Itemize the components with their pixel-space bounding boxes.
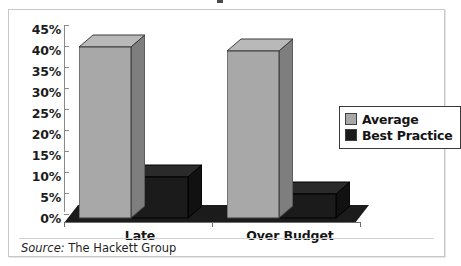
y-tick-mark-10 (64, 172, 69, 173)
y-tick-label-5: 5% (17, 193, 61, 203)
y-axis-line (64, 25, 65, 212)
y-tick-mark-35 (64, 67, 69, 68)
y-tick-label-15: 15% (17, 151, 61, 161)
source-note: Source: The Hackett Group (21, 241, 176, 255)
y-tick-mark-30 (64, 88, 69, 89)
y-tick-mark-20 (64, 130, 69, 131)
x-tick-mark-end (360, 222, 361, 227)
source-label: Source: (21, 241, 65, 255)
y-tick-label-10: 10% (17, 172, 61, 182)
x-tick-mark-mid (212, 222, 213, 227)
y-tick-label-0: 0% (17, 214, 61, 224)
chart-figure: 45% 40% 35% 30% 25% 20% 15% 10% 5% 0% (8, 9, 445, 257)
y-tick-label-25: 25% (17, 109, 61, 119)
y-tick-mark-5 (64, 193, 69, 194)
y-tick-label-40: 40% (17, 46, 61, 56)
legend-item-average[interactable]: Average (345, 111, 453, 127)
y-tick-mark-15 (64, 151, 69, 152)
chart-legend[interactable]: Average Best Practice (339, 106, 461, 149)
y-tick-mark-40 (64, 46, 69, 47)
y-tick-label-35: 35% (17, 67, 61, 77)
y-tick-mark-45 (64, 25, 69, 26)
x-tick-mark-start (64, 222, 65, 227)
legend-swatch-average-icon (345, 113, 357, 125)
bar-over-budget-average-shape (227, 10, 293, 223)
legend-swatch-best-practice-icon (345, 129, 357, 141)
y-tick-label-30: 30% (17, 88, 61, 98)
bar-late-average-shape (79, 10, 145, 223)
bar-over-budget-average[interactable] (227, 10, 279, 223)
source-value: The Hackett Group (65, 241, 177, 255)
legend-label-best-practice: Best Practice (362, 128, 453, 143)
x-axis-label-over-budget: Over Budget (231, 228, 349, 243)
footer-divider (19, 238, 434, 239)
plot-area: 45% 40% 35% 30% 25% 20% 15% 10% 5% 0% (9, 10, 446, 258)
y-tick-mark-25 (64, 109, 69, 110)
y-tick-label-45: 45% (17, 25, 61, 35)
y-tick-label-20: 20% (17, 130, 61, 140)
legend-label-average: Average (362, 112, 418, 127)
bar-late-average[interactable] (79, 10, 131, 223)
clipped-title-remnant (217, 0, 223, 3)
y-axis-labels: 45% 40% 35% 30% 25% 20% 15% 10% 5% 0% (13, 10, 61, 258)
legend-item-best-practice[interactable]: Best Practice (345, 127, 453, 143)
